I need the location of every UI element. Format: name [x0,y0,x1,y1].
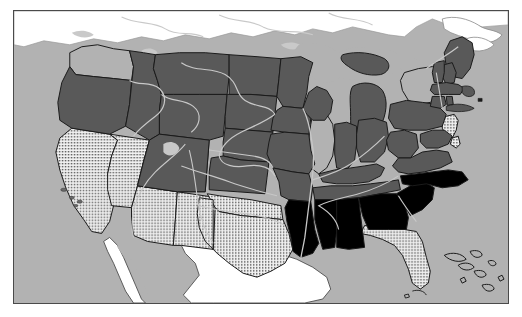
map-frame [13,10,509,304]
state-RI[interactable] [446,96,453,105]
state-MT[interactable] [153,53,229,95]
figure-container [0,0,522,317]
state-WY[interactable] [159,94,227,140]
state-SD[interactable] [225,94,277,132]
choropleth-map [14,11,508,303]
state-CT[interactable] [430,96,446,108]
state-NE[interactable] [223,128,273,162]
state-VT[interactable] [432,61,444,83]
state-AZ[interactable] [132,186,178,246]
island-cape-cod [462,86,474,97]
state-MO[interactable] [267,132,315,174]
island-nantucket [478,98,482,101]
state-KS[interactable] [209,156,269,194]
